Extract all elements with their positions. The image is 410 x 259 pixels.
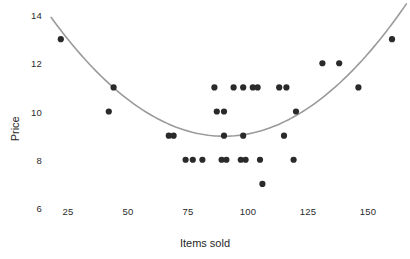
data-point	[106, 108, 112, 114]
data-point	[111, 84, 117, 90]
data-point	[389, 36, 395, 42]
x-tick-label: 150	[360, 206, 376, 217]
scatter-chart: 68101214 255075100125150 Items sold Pric…	[0, 0, 410, 259]
x-axis-title: Items sold	[0, 237, 410, 249]
data-point	[231, 84, 237, 90]
data-point	[276, 84, 282, 90]
y-tick-label: 12	[20, 58, 42, 69]
data-point	[183, 157, 189, 163]
y-tick-label: 14	[20, 10, 42, 21]
data-point	[255, 84, 261, 90]
data-point	[240, 84, 246, 90]
data-point	[257, 157, 263, 163]
y-axis-title: Price	[9, 116, 21, 141]
y-tick-label: 6	[20, 203, 42, 214]
data-point	[259, 181, 265, 187]
data-points	[58, 36, 395, 187]
data-point	[240, 133, 246, 139]
data-point	[336, 60, 342, 66]
x-tick-label: 125	[300, 206, 316, 217]
data-point	[291, 157, 297, 163]
regression-curve	[51, 4, 406, 136]
x-tick-label: 25	[63, 206, 74, 217]
plot-area	[0, 0, 410, 259]
data-point	[190, 157, 196, 163]
y-tick-label: 10	[20, 106, 42, 117]
data-point	[355, 84, 361, 90]
data-point	[214, 108, 220, 114]
data-point	[171, 133, 177, 139]
data-point	[293, 108, 299, 114]
data-point	[243, 157, 249, 163]
y-tick-label: 8	[20, 154, 42, 165]
data-point	[319, 60, 325, 66]
data-point	[281, 133, 287, 139]
data-point	[223, 157, 229, 163]
data-point	[221, 133, 227, 139]
data-point	[211, 84, 217, 90]
x-tick-label: 100	[240, 206, 256, 217]
x-tick-label: 75	[183, 206, 194, 217]
x-tick-label: 50	[123, 206, 134, 217]
data-point	[199, 157, 205, 163]
data-point	[283, 84, 289, 90]
data-point	[221, 108, 227, 114]
data-point	[58, 36, 64, 42]
